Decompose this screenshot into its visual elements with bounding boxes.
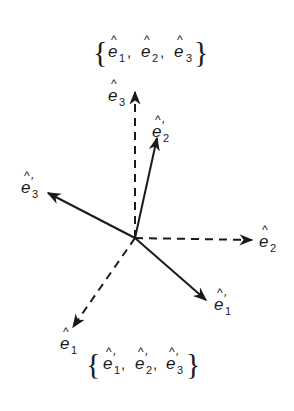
svg-text:′: ′	[224, 292, 227, 306]
svg-text:1: 1	[119, 52, 125, 64]
svg-text:1: 1	[114, 364, 120, 376]
svg-text:3: 3	[32, 188, 38, 200]
svg-text:e: e	[108, 86, 117, 105]
svg-text:,: ,	[127, 43, 131, 60]
svg-text:3: 3	[186, 52, 192, 64]
svg-text:′: ′	[31, 175, 34, 189]
svg-text:′: ′	[176, 351, 179, 365]
svg-text:e: e	[152, 122, 161, 141]
svg-text:3: 3	[177, 364, 183, 376]
e2-symbol: e	[141, 42, 150, 61]
e3-symbol: e	[174, 42, 183, 61]
svg-text:3: 3	[119, 96, 125, 108]
e1-prime-axis-solid	[135, 238, 206, 300]
svg-text:e: e	[259, 232, 268, 251]
e3-prime-label: ^ e ′ 3	[21, 169, 38, 200]
svg-text:e: e	[135, 354, 144, 373]
e3-label: ^ e 3	[108, 77, 125, 108]
svg-text:e: e	[103, 354, 112, 373]
svg-text:2: 2	[270, 242, 276, 254]
svg-text:,: ,	[153, 355, 157, 372]
original-basis-set-label: { ^ e 1 , ^ e 2 , ^ e 3 }	[93, 33, 208, 68]
rotated-basis-set-label: { ^ e ′ 1 , ^ e ′ 2 , ^ e ′ 3 }	[86, 345, 200, 380]
open-brace: {	[86, 347, 100, 380]
svg-text:e: e	[21, 178, 30, 197]
svg-text:e: e	[166, 354, 175, 373]
svg-text:,: ,	[160, 43, 164, 60]
svg-text:′: ′	[145, 351, 148, 365]
svg-text:1: 1	[225, 305, 231, 317]
svg-text:′: ′	[162, 119, 165, 133]
e1-axis-dashed	[73, 238, 135, 327]
svg-text:e: e	[214, 295, 223, 314]
e2-axis-dashed	[135, 238, 252, 240]
svg-text:1: 1	[71, 344, 77, 356]
e2-prime-axis-solid	[135, 138, 157, 238]
svg-text:e: e	[60, 334, 69, 353]
svg-text:2: 2	[146, 364, 152, 376]
close-brace: }	[186, 347, 200, 380]
svg-text:2: 2	[163, 132, 169, 144]
e3-prime-axis-solid	[48, 193, 135, 238]
open-brace: {	[93, 35, 107, 68]
svg-text:,: ,	[121, 355, 125, 372]
svg-text:′: ′	[113, 351, 116, 365]
close-brace: }	[194, 35, 208, 68]
e1-label: ^ e 1	[60, 325, 77, 356]
svg-text:2: 2	[152, 52, 158, 64]
e1-prime-label: ^ e ′ 1	[214, 286, 231, 317]
e2-prime-label: ^ e ′ 2	[152, 113, 169, 144]
basis-vectors-diagram: { ^ e 1 , ^ e 2 , ^ e 3 } ^ e 3 ^ e ′ 2 …	[0, 0, 294, 411]
e1-symbol: e	[108, 42, 117, 61]
e2-label: ^ e 2	[259, 223, 276, 254]
